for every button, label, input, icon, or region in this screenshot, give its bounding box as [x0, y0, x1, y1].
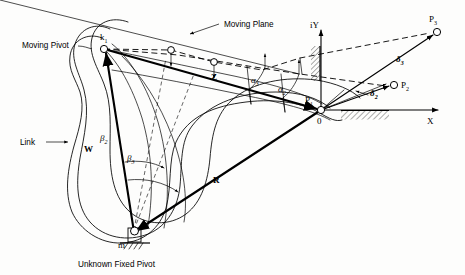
svg-text:P2: P2 — [401, 80, 409, 92]
label-P3: P3 — [429, 14, 437, 26]
vector-R — [136, 112, 318, 231]
svg-text:δ2: δ2 — [370, 88, 378, 100]
svg-text:α2: α2 — [278, 84, 286, 96]
label-m: m — [118, 240, 125, 250]
label-Z: Z — [211, 72, 217, 82]
label-delta2: δ2 — [370, 88, 378, 100]
label-axis-x: X — [427, 116, 434, 126]
figure-root: Moving Pivot Moving Plane Link Unknown F… — [0, 0, 465, 275]
ground-hatch-x — [341, 111, 389, 120]
label-k1: k1 — [100, 32, 108, 44]
node-P3 — [433, 28, 440, 35]
node-origin — [317, 106, 324, 113]
svg-text:β2: β2 — [99, 133, 107, 145]
node-k1 — [100, 45, 107, 52]
label-link: Link — [20, 138, 36, 147]
svg-text:α3: α3 — [251, 75, 259, 87]
label-unknown-fixed-pivot: Unknown Fixed Pivot — [78, 260, 156, 269]
vector-delta2 — [321, 86, 389, 110]
moving-pivot-path-dashed — [104, 33, 430, 86]
label-beta2: β2 — [99, 133, 107, 145]
label-P1: P1 — [305, 95, 313, 107]
svg-text:k1: k1 — [100, 32, 108, 44]
leader-moving-pivot — [78, 46, 92, 49]
svg-text:β3: β3 — [126, 153, 134, 165]
label-alpha3: α3 — [251, 75, 259, 87]
svg-text:P1: P1 — [305, 95, 313, 107]
node-P2 — [390, 81, 397, 88]
label-moving-plane: Moving Plane — [224, 20, 274, 29]
label-W: W — [84, 144, 93, 154]
label-axis-iy: iY — [310, 20, 320, 30]
label-R: R — [213, 175, 220, 185]
kinematic-diagram: Moving Pivot Moving Plane Link Unknown F… — [0, 0, 465, 275]
leader-moving-plane — [190, 24, 219, 34]
label-beta3: β3 — [126, 153, 134, 165]
label-origin: 0 — [317, 116, 322, 126]
ground-hatch-y — [311, 46, 320, 81]
node-k2 — [168, 47, 175, 54]
label-moving-pivot: Moving Pivot — [22, 41, 70, 50]
node-k3 — [211, 59, 218, 66]
svg-text:P3: P3 — [429, 14, 437, 26]
label-P2: P2 — [401, 80, 409, 92]
angle-alpha2 — [0, 0, 299, 112]
label-alpha2: α2 — [278, 84, 286, 96]
